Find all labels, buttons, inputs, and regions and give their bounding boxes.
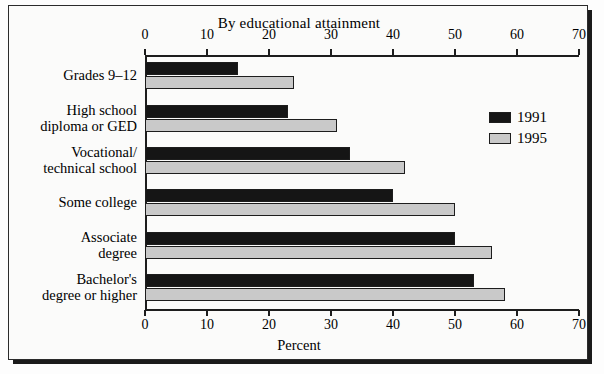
bottom-axis-line (145, 309, 579, 311)
x-ticklabel-top-70: 70 (559, 27, 599, 43)
x-tick-bottom-0 (144, 310, 146, 316)
plot-area: 001010202030304040505060607070PercentGra… (9, 6, 589, 361)
x-ticklabel-bottom-10: 10 (187, 317, 227, 333)
top-axis-line (145, 55, 579, 57)
x-axis-label: Percent (9, 337, 589, 354)
x-tick-top-0 (144, 49, 146, 55)
x-ticklabel-bottom-40: 40 (373, 317, 413, 333)
bar-1995-4 (145, 246, 492, 259)
x-tick-top-60 (516, 49, 518, 55)
x-tick-bottom-60 (516, 310, 518, 316)
figure-frame: By educational attainment 00101020203030… (8, 5, 588, 360)
chart-legend: 1991 1995 (489, 109, 547, 151)
bar-1991-3 (145, 189, 393, 202)
legend-swatch-1995 (489, 133, 511, 144)
category-label-3: Some college (0, 194, 137, 210)
bar-1991-2 (145, 147, 350, 160)
chart-figure: By educational attainment 00101020203030… (0, 0, 604, 374)
legend-label-1991: 1991 (517, 109, 547, 126)
x-tick-top-10 (206, 49, 208, 55)
category-label-4: Associatedegree (0, 229, 137, 261)
bar-1991-1 (145, 105, 288, 118)
x-tick-top-20 (268, 49, 270, 55)
legend-item-1995: 1995 (489, 130, 547, 147)
legend-item-1991: 1991 (489, 109, 547, 126)
x-tick-bottom-30 (330, 310, 332, 316)
x-tick-bottom-20 (268, 310, 270, 316)
x-ticklabel-bottom-50: 50 (435, 317, 475, 333)
bar-1995-3 (145, 203, 455, 216)
category-label-line: Some college (0, 194, 137, 210)
category-label-line: degree or higher (0, 287, 137, 303)
category-label-line: Associate (0, 229, 137, 245)
x-ticklabel-top-0: 0 (125, 27, 165, 43)
x-ticklabel-top-60: 60 (497, 27, 537, 43)
legend-label-1995: 1995 (517, 130, 547, 147)
category-label-0: Grades 9–12 (0, 67, 137, 83)
legend-swatch-1991 (489, 112, 511, 123)
category-label-line: Grades 9–12 (0, 67, 137, 83)
category-label-5: Bachelor'sdegree or higher (0, 271, 137, 303)
x-tick-top-70 (578, 49, 580, 55)
bar-1991-0 (145, 62, 238, 75)
x-tick-bottom-50 (454, 310, 456, 316)
x-ticklabel-bottom-20: 20 (249, 317, 289, 333)
x-ticklabel-bottom-0: 0 (125, 317, 165, 333)
category-label-line: Bachelor's (0, 271, 137, 287)
x-ticklabel-bottom-30: 30 (311, 317, 351, 333)
category-label-line: Vocational/ (0, 144, 137, 160)
x-tick-bottom-40 (392, 310, 394, 316)
bar-1995-5 (145, 288, 505, 301)
bar-1995-0 (145, 76, 294, 89)
x-ticklabel-top-40: 40 (373, 27, 413, 43)
x-tick-top-40 (392, 49, 394, 55)
category-label-line: technical school (0, 160, 137, 176)
x-ticklabel-top-20: 20 (249, 27, 289, 43)
category-label-line: High school (0, 102, 137, 118)
bar-1995-1 (145, 119, 337, 132)
x-ticklabel-top-10: 10 (187, 27, 227, 43)
x-tick-bottom-70 (578, 310, 580, 316)
category-label-2: Vocational/technical school (0, 144, 137, 176)
category-label-line: degree (0, 245, 137, 261)
x-ticklabel-top-30: 30 (311, 27, 351, 43)
x-ticklabel-top-50: 50 (435, 27, 475, 43)
x-tick-top-30 (330, 49, 332, 55)
category-axis-line (145, 55, 147, 309)
x-ticklabel-bottom-60: 60 (497, 317, 537, 333)
x-ticklabel-bottom-70: 70 (559, 317, 599, 333)
category-label-line: diploma or GED (0, 118, 137, 134)
bar-1995-2 (145, 161, 405, 174)
x-tick-bottom-10 (206, 310, 208, 316)
bar-1991-4 (145, 232, 455, 245)
bar-1991-5 (145, 274, 474, 287)
x-tick-top-50 (454, 49, 456, 55)
category-label-1: High schooldiploma or GED (0, 102, 137, 134)
